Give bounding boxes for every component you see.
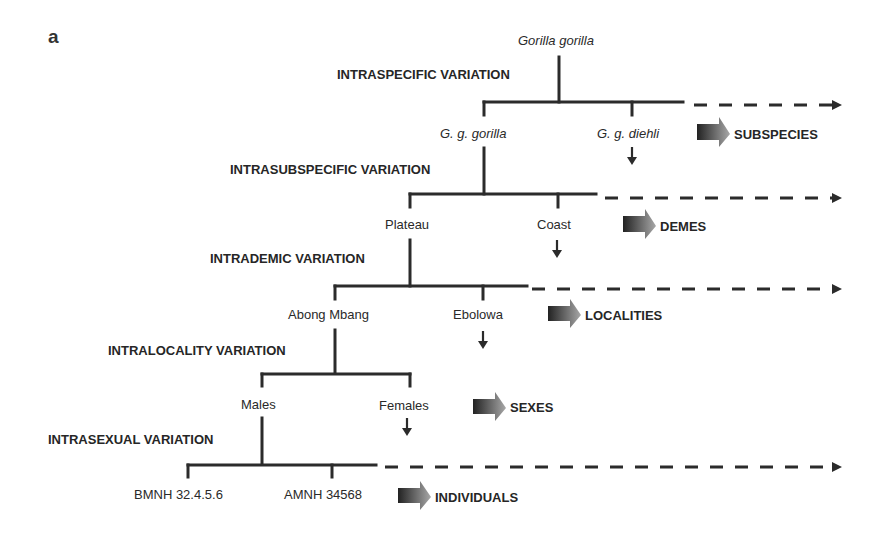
variation-label-intrasubspecific: INTRASUBSPECIFIC VARIATION — [230, 162, 430, 178]
category-arrow-icon — [697, 117, 730, 147]
variation-label-intrasexual: INTRASEXUAL VARIATION — [48, 432, 213, 448]
node-females: Females — [379, 398, 429, 414]
category-arrow-icon — [398, 481, 431, 510]
category-sexes: SEXES — [510, 400, 553, 416]
variation-label-intraspecific: INTRASPECIFIC VARIATION — [337, 67, 510, 83]
node-amnh-specimen: AMNH 34568 — [284, 487, 362, 503]
category-demes: DEMES — [660, 219, 706, 235]
variation-label-intralocality: INTRALOCALITY VARIATION — [108, 343, 286, 359]
node-plateau: Plateau — [385, 217, 429, 233]
node-g-g-diehli: G. g. diehli — [597, 126, 659, 142]
category-arrow-icon — [548, 299, 581, 328]
category-individuals: INDIVIDUALS — [435, 490, 518, 506]
category-arrow-icon — [623, 209, 656, 239]
node-abong-mbang: Abong Mbang — [288, 307, 369, 323]
category-arrow-icon — [473, 392, 506, 421]
variation-label-intrademic: INTRADEMIC VARIATION — [210, 251, 365, 267]
category-subspecies: SUBSPECIES — [734, 127, 818, 143]
node-coast: Coast — [537, 217, 571, 233]
root-node-label: Gorilla gorilla — [518, 33, 594, 49]
node-males: Males — [241, 397, 276, 413]
node-bmnh-specimen: BMNH 32.4.5.6 — [134, 487, 223, 503]
node-ebolowa: Ebolowa — [453, 307, 503, 323]
node-g-g-gorilla: G. g. gorilla — [440, 126, 506, 142]
category-localities: LOCALITIES — [585, 308, 662, 324]
